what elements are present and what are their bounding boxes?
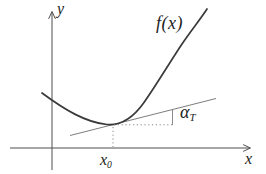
- tangent-angle-label: αT: [180, 103, 195, 121]
- alpha-subscript: T: [189, 111, 195, 123]
- tangent-angle-diagram: y x f(x) x0 αT: [0, 0, 266, 174]
- y-axis-label: y: [57, 1, 64, 17]
- figure-canvas: [0, 0, 266, 174]
- x0-subscript: 0: [107, 159, 112, 170]
- x-axis-label: x: [245, 151, 252, 167]
- function-label: f(x): [156, 14, 183, 32]
- x0-label: x0: [100, 152, 112, 168]
